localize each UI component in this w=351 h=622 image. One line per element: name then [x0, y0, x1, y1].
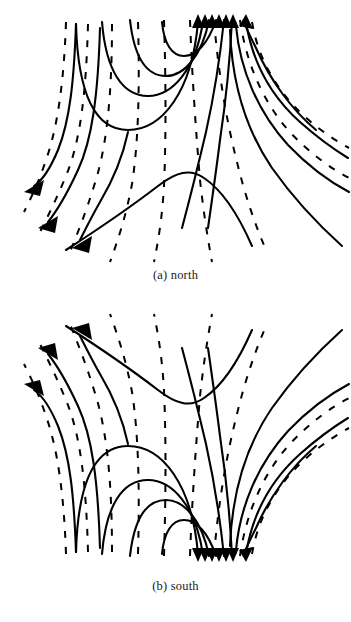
dashed-line-1: [24, 22, 66, 212]
solid-line-c2: [182, 20, 224, 228]
dashed-line-1: [24, 364, 66, 554]
solid-line-u3: [102, 21, 203, 96]
caption-south: (b) south: [0, 579, 351, 594]
solid-line-l1: [34, 24, 76, 186]
panel-north: (a) north: [0, 0, 351, 300]
solid-line-c2: [182, 348, 224, 556]
south-outflow-arrows: [24, 323, 92, 396]
dashed-line-5: [154, 20, 166, 262]
solid-line-r3: [230, 330, 342, 546]
dashed-line-5: [154, 314, 166, 556]
caption-north: (a) north: [0, 268, 351, 283]
dashed-line-4: [110, 314, 139, 554]
dashed-line-9: [252, 22, 349, 148]
north-arrow-cluster: [192, 14, 253, 29]
south-diagram: [0, 311, 351, 576]
arrow-upleft-1: [24, 380, 44, 396]
dashed-line-4: [110, 22, 139, 262]
panel-south: (b) south: [0, 311, 351, 611]
figure-page: (a) north: [0, 0, 351, 622]
solid-line-arch3: [102, 480, 203, 555]
north-diagram: [0, 0, 351, 265]
arrow-downleft-1: [24, 180, 44, 196]
solid-line-r3: [230, 30, 342, 246]
dashed-line-9: [252, 428, 349, 554]
south-mirror-group: [24, 314, 349, 562]
north-outflow-arrows: [24, 180, 92, 253]
solid-line-l1: [34, 390, 76, 552]
south-arrow-cluster: [192, 547, 253, 562]
